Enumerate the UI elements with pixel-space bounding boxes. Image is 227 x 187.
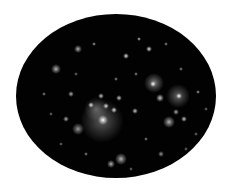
- star-glow: [88, 102, 94, 108]
- star-glow: [194, 132, 198, 136]
- star-glow: [134, 72, 138, 76]
- star-glow: [123, 53, 129, 59]
- star-glow: [179, 67, 183, 71]
- star-glow: [59, 142, 63, 146]
- star-glow: [115, 153, 127, 165]
- star-glow: [132, 108, 138, 114]
- star-glow: [146, 46, 152, 52]
- star-glow: [74, 45, 82, 53]
- star-glow: [150, 81, 156, 87]
- star-glow: [158, 151, 164, 157]
- star-glow: [204, 107, 208, 111]
- star-glow: [107, 160, 115, 168]
- star-glow: [116, 95, 122, 101]
- star-glow: [74, 72, 78, 76]
- star-glow: [98, 93, 104, 99]
- star-glow: [173, 109, 179, 115]
- star-glow: [144, 137, 148, 141]
- star-glow: [156, 94, 164, 102]
- star-glow: [51, 64, 61, 74]
- star-glow: [84, 152, 88, 156]
- star-glow: [164, 42, 168, 46]
- star-glow: [176, 93, 182, 99]
- star-glow: [181, 116, 187, 122]
- star-glow: [72, 123, 84, 135]
- star-glow: [137, 37, 141, 41]
- star-glow: [163, 116, 175, 128]
- star-glow: [184, 147, 188, 151]
- galaxy-cluster-image: [16, 14, 216, 178]
- star-glow: [129, 167, 133, 171]
- star-glow: [42, 92, 46, 96]
- star-glow: [68, 91, 74, 97]
- star-glow: [196, 90, 200, 94]
- star-glow: [84, 97, 108, 121]
- star-glow: [103, 103, 109, 109]
- star-glow: [49, 112, 53, 116]
- star-glow: [63, 116, 69, 122]
- star-glow: [92, 42, 96, 46]
- star-glow: [114, 77, 118, 81]
- star-glow: [111, 107, 117, 113]
